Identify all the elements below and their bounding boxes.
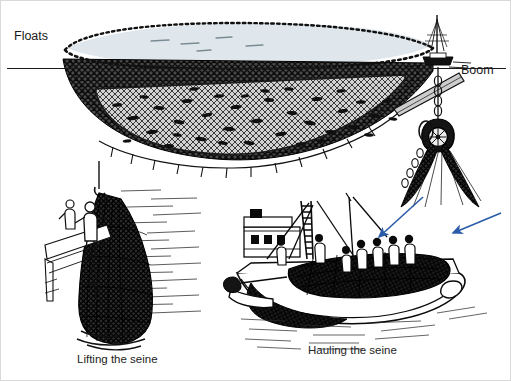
panel-seine-underwater — [7, 15, 506, 207]
caption-lifting-the-seine: Lifting the seine — [77, 353, 158, 365]
label-boom: Boom — [461, 63, 494, 77]
arrow-to-net-bundle — [453, 213, 501, 233]
panel-hauling-the-seine — [223, 193, 501, 349]
label-floats: Floats — [14, 29, 48, 43]
annotation-arrows — [379, 197, 501, 237]
illustration-canvas — [1, 1, 511, 381]
fisherman-back-left — [59, 200, 75, 229]
panel-lifting-the-seine — [45, 161, 201, 350]
caption-hauling-the-seine: Hauling the seine — [308, 344, 397, 356]
arrow-to-crew — [379, 197, 423, 237]
hanging-net — [401, 143, 481, 207]
pulley-block — [419, 119, 454, 152]
wheelhouse — [244, 209, 300, 257]
fishing-seine-illustration: Floats Boom Lifting the seine Hauling th… — [0, 0, 511, 381]
